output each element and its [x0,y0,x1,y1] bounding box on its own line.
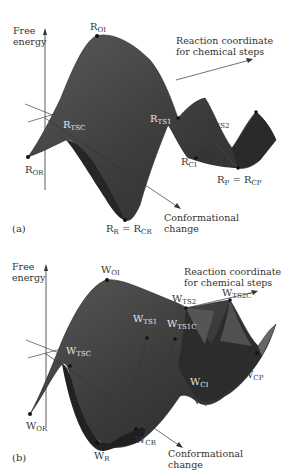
panel-tag-a: (a) [12,223,26,234]
panel-b-energy-landscape: Free energy Reaction coordinate for chem… [0,236,286,471]
axis-label-line: change [168,459,243,470]
axis-label-line: energy [13,36,46,47]
point-label-WP: WP [194,395,209,410]
free-energy-axis-label-a: Free energy [13,25,46,47]
axis-label-line: Reaction coordinate [184,266,281,277]
free-energy-axis-label-b: Free energy [12,261,45,283]
point-label-WTSC: WTSC [66,345,91,360]
axis-label-line: Free [13,25,46,36]
point-label-WCI: WCI [190,376,208,391]
axis-label-line: for chemical steps [176,46,273,57]
reaction-coordinate-axis-label-b: Reaction coordinate for chemical steps [184,266,281,288]
panel-a-energy-landscape: Free energy Reaction coordinate for chem… [0,0,286,236]
axis-label-line: energy [12,272,45,283]
conformational-change-axis-label-a: Conformational change [164,212,239,234]
panel-tag-b: (b) [12,452,26,463]
axis-label-line: change [164,223,239,234]
point-label-WOI: WOI [101,264,120,279]
point-label-RTSC: RTSC [63,119,85,134]
conformational-change-axis-label-b: Conformational change [168,448,243,470]
point-label-WTS2: WTS2 [172,293,196,308]
axis-label-line: Reaction coordinate [176,35,273,46]
point-label-WTS1C: WTS1C [167,318,197,333]
point-label-WTS2C: WTS2C [222,287,252,302]
reaction-coordinate-axis-label-a: Reaction coordinate for chemical steps [176,35,273,57]
point-label-ROI: ROI [90,21,106,36]
point-label-WCP: WCP [243,369,263,384]
point-label-RCI: RCI [181,156,197,171]
axis-label-line: Free [12,261,45,272]
point-label-WTS1: WTS1 [133,313,157,328]
point-label-WOR: WOR [26,420,47,435]
point-label-WCR: WCR [135,434,156,449]
point-label-RTS1: RTS1 [150,113,171,128]
point-label-WR: WR [94,450,110,465]
point-label-ROR: ROR [25,164,44,179]
point-label-RTS2: RTS2 [208,117,229,132]
axis-label-line: Conformational [164,212,239,223]
point-label-RP-RCP: RP = RCP [217,174,262,189]
axis-label-line: Conformational [168,448,243,459]
